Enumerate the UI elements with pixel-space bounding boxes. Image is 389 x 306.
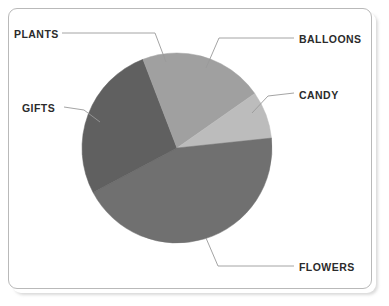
pie-label-balloons: BALLOONS — [299, 33, 362, 45]
pie-label-gifts: GIFTS — [22, 102, 55, 114]
pie-slices — [82, 53, 272, 243]
pie-label-flowers: FLOWERS — [299, 261, 355, 273]
leader-line-flowers — [206, 238, 294, 266]
pie-label-plants: PLANTS — [14, 28, 59, 40]
pie-chart-figure: PLANTS BALLOONS CANDY GIFTS FLOWERS — [0, 0, 389, 306]
pie-label-candy: CANDY — [299, 89, 339, 101]
